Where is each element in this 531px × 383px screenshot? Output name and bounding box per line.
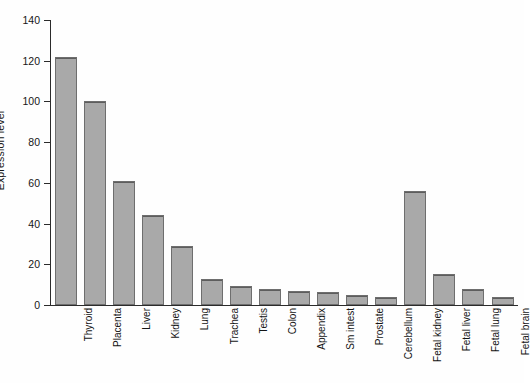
x-axis-tick-label: Appendix (317, 308, 327, 383)
y-axis-tick (44, 61, 50, 62)
bar (462, 289, 484, 305)
y-axis-tick (44, 305, 50, 306)
x-axis-tick-label: Fetal kidney (433, 308, 443, 383)
bar (375, 297, 397, 305)
x-axis-tick-label: Liver (142, 308, 152, 383)
x-axis-tick-label: Cerebellum (404, 308, 414, 383)
x-axis-tick-label: Fetal brain (521, 308, 531, 383)
y-axis-tick-label: 20 (0, 259, 40, 270)
bar (55, 57, 77, 305)
x-axis-tick-label: Prostate (375, 308, 385, 383)
x-axis-tick-label: Fetal liver (462, 308, 472, 383)
y-axis-tick-label: 140 (0, 15, 40, 26)
y-axis-tick (44, 142, 50, 143)
bar (492, 297, 514, 305)
y-axis-tick-label: 0 (0, 300, 40, 311)
bar (259, 289, 281, 305)
bar (346, 295, 368, 305)
y-axis-tick (44, 224, 50, 225)
y-axis-tick (44, 20, 50, 21)
y-axis-tick-label: 100 (0, 96, 40, 107)
x-axis-tick-label: Thyroid (84, 308, 94, 383)
bar (404, 191, 426, 305)
bar (84, 101, 106, 305)
y-axis-tick-label: 40 (0, 219, 40, 230)
x-axis-tick-label: Colon (288, 308, 298, 383)
bar (171, 246, 193, 305)
y-axis-tick (44, 264, 50, 265)
bar (113, 181, 135, 305)
x-axis-tick-label: Kidney (171, 308, 181, 383)
bar (142, 215, 164, 305)
bars-container (51, 20, 518, 305)
x-axis-tick-label: Testis (259, 308, 269, 383)
x-axis-tick-label: Placenta (113, 308, 123, 383)
y-axis-tick-label: 120 (0, 56, 40, 67)
x-axis-tick-label: Lung (200, 308, 210, 383)
x-axis-labels: ThyroidPlacentaLiverKidneyLungTracheaTes… (51, 306, 518, 383)
y-axis-tick-label: 80 (0, 137, 40, 148)
bar (433, 274, 455, 305)
bar (201, 279, 223, 305)
bar (317, 292, 339, 305)
y-axis-tick (44, 101, 50, 102)
y-axis-tick (44, 183, 50, 184)
x-axis-tick-label: Fetal lung (491, 308, 501, 383)
y-axis-title: Expression level (0, 8, 11, 293)
bar (230, 286, 252, 305)
x-axis-tick-label: Sm intest (346, 308, 356, 383)
y-axis-tick-label: 60 (0, 178, 40, 189)
bar (288, 291, 310, 305)
x-axis-tick-label: Trachea (230, 308, 240, 383)
